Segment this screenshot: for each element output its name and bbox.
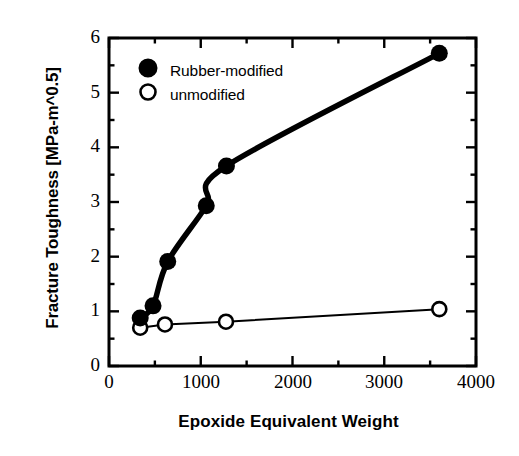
data-point-unmodified	[432, 302, 446, 316]
series-markers-rubber-modified	[132, 45, 448, 327]
chart-figure: Fracture Toughness [MPa-m^0.5] Epoxide E…	[0, 0, 519, 456]
data-point-unmodified	[219, 315, 233, 329]
data-point-rubber-modified	[198, 197, 215, 214]
data-point-rubber-modified	[145, 297, 162, 314]
series-line-unmodified	[140, 309, 439, 328]
data-point-unmodified	[158, 317, 172, 331]
plot-area	[0, 0, 519, 456]
series-line-rubber-modified	[140, 53, 439, 318]
data-point-rubber-modified	[431, 45, 448, 62]
data-point-rubber-modified	[218, 157, 235, 174]
legend-marker-open-circle-icon	[141, 85, 156, 100]
legend-marker-filled-circle-icon	[140, 60, 157, 77]
data-point-rubber-modified	[159, 253, 176, 270]
data-point-rubber-modified	[132, 309, 149, 326]
